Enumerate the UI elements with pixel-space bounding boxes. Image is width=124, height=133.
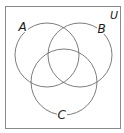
venn-diagram: U A B C bbox=[0, 0, 124, 133]
set-a-label: A bbox=[18, 20, 27, 34]
universe-label: U bbox=[110, 9, 118, 22]
set-c-label: C bbox=[58, 108, 67, 122]
set-b-label: B bbox=[98, 22, 106, 36]
